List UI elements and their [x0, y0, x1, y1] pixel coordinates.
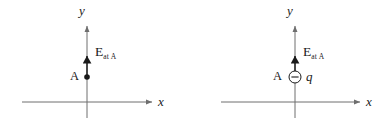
field-vector-label: Eat A — [95, 45, 116, 59]
field-subscript: at A — [311, 52, 324, 61]
field-vector-label: Eat A — [303, 45, 324, 59]
point-a-label: A — [70, 70, 79, 83]
charge-label: q — [306, 70, 313, 83]
y-axis-label: y — [79, 4, 85, 17]
x-axis-label: x — [366, 95, 372, 108]
x-axis-label: x — [158, 95, 164, 108]
field-symbol: E — [303, 44, 311, 59]
field-symbol: E — [95, 44, 103, 59]
y-axis-label: y — [287, 4, 293, 17]
diagram-panel-right: y x A q Eat A — [195, 0, 391, 122]
point-a-label: A — [273, 70, 282, 83]
point-a-marker — [84, 74, 90, 80]
diagram-panel-left: y x A Eat A — [0, 0, 196, 122]
left-panel-canvas — [0, 0, 196, 122]
right-panel-canvas — [195, 0, 391, 122]
physics-figure: y x A Eat A — [0, 0, 391, 122]
field-subscript: at A — [103, 52, 116, 61]
